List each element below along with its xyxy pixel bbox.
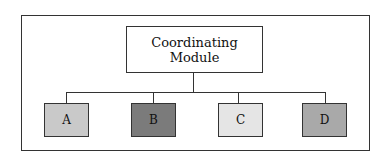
module-b-node: B (131, 103, 176, 137)
root-label-line1: Coordinating (151, 35, 238, 50)
module-c-label: C (236, 113, 245, 127)
connector-a (66, 92, 67, 103)
module-d-label: D (320, 113, 330, 127)
connector-c (238, 92, 239, 103)
connector-b (153, 92, 154, 103)
horizontal-bus-line (66, 92, 326, 93)
coordinating-module-node: Coordinating Module (126, 26, 263, 73)
module-d-node: D (302, 103, 347, 137)
connector-d (325, 92, 326, 103)
module-b-label: B (149, 113, 158, 127)
root-stem-line (193, 73, 194, 92)
module-a-label: A (62, 113, 71, 127)
module-a-node: A (44, 103, 89, 137)
module-c-node: C (218, 103, 263, 137)
root-label-line2: Module (170, 50, 220, 65)
